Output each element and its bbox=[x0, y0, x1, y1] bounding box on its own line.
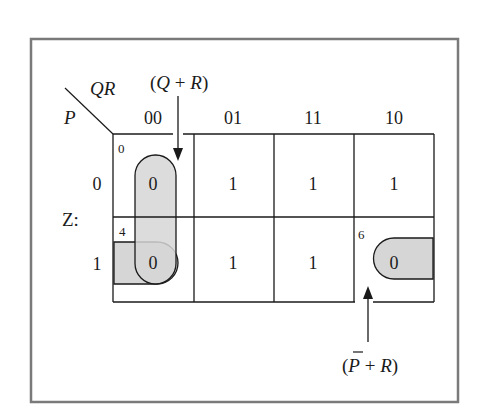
cell-value-r0c3: 1 bbox=[390, 174, 399, 194]
group-label-q-plus-r: (Q + R) bbox=[150, 72, 208, 94]
row-header-0: 0 bbox=[93, 174, 102, 194]
cell-value-r1c2: 1 bbox=[309, 253, 318, 273]
group-loop-wrap-right bbox=[373, 238, 433, 279]
cell-value-r1c3: 0 bbox=[390, 253, 399, 273]
arrow-head-up-icon bbox=[363, 286, 373, 299]
cell-index-4: 4 bbox=[119, 224, 126, 239]
row-header-1: 1 bbox=[93, 254, 102, 274]
karnaugh-map-diagram: QR P Z: 00 01 11 10 0 1 0 4 6 0 1 1 1 0 … bbox=[0, 0, 485, 417]
column-variables-label: QR bbox=[90, 78, 116, 99]
cell-value-r0c1: 1 bbox=[229, 174, 238, 194]
output-label: Z: bbox=[62, 209, 79, 230]
cell-value-r0c0: 0 bbox=[149, 174, 158, 194]
cell-index-0: 0 bbox=[118, 141, 125, 156]
cell-index-6: 6 bbox=[358, 227, 365, 242]
column-header-11: 11 bbox=[304, 108, 321, 128]
cell-value-r1c0: 0 bbox=[149, 253, 158, 273]
column-header-10: 10 bbox=[385, 108, 403, 128]
column-header-01: 01 bbox=[224, 108, 242, 128]
cell-value-r1c1: 1 bbox=[229, 253, 238, 273]
row-variable-label: P bbox=[63, 107, 76, 128]
column-header-00: 00 bbox=[144, 108, 162, 128]
arrow-head-down-icon bbox=[173, 148, 183, 161]
group-label-pbar-plus-r: (P + R) bbox=[342, 355, 398, 377]
cell-value-r0c2: 1 bbox=[309, 174, 318, 194]
